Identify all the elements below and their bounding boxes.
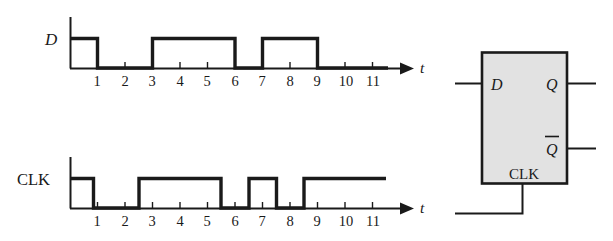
clk-axis-tick-labels: 1 2 3 4 5 6 7 8 9 10 11 xyxy=(93,213,380,229)
clk-tick-label-11: 11 xyxy=(366,213,380,229)
d-tick-label-3: 3 xyxy=(148,73,155,89)
d-tick-label-6: 6 xyxy=(231,73,238,89)
clk-tick-label-8: 8 xyxy=(286,213,293,229)
clk-tick-label-4: 4 xyxy=(176,213,184,229)
clk-axis-arrowhead xyxy=(400,203,414,215)
d-tick-label-7: 7 xyxy=(258,73,265,89)
d-tick-label-2: 2 xyxy=(121,73,128,89)
clk-input-wire xyxy=(455,183,523,214)
figure-canvas: D t xyxy=(0,0,613,241)
clk-tick-label-7: 7 xyxy=(258,213,265,229)
flip-flop-port-clk-label: CLK xyxy=(509,166,539,182)
clk-waveform-group: CLK t xyxy=(17,157,425,229)
flip-flop-port-q-bar-label: Q xyxy=(546,141,558,158)
d-tick-label-4: 4 xyxy=(176,73,184,89)
d-flip-flop-symbol: D Q Q CLK xyxy=(455,53,596,214)
d-axis-arrowhead xyxy=(400,63,414,75)
d-axis-variable: t xyxy=(420,59,425,76)
d-signal-label: D xyxy=(44,30,58,49)
timing-diagram-figure: D t xyxy=(0,0,613,241)
d-axis-tick-labels: 1 2 3 4 5 6 7 8 9 10 11 xyxy=(93,73,380,89)
clk-tick-label-10: 10 xyxy=(339,213,354,229)
d-waveform-group: D t xyxy=(44,17,425,89)
d-tick-label-5: 5 xyxy=(203,73,210,89)
d-tick-label-9: 9 xyxy=(313,73,320,89)
clk-axis-variable: t xyxy=(420,199,425,216)
clk-tick-label-9: 9 xyxy=(313,213,320,229)
flip-flop-port-d-label: D xyxy=(490,76,503,93)
d-tick-label-10: 10 xyxy=(339,73,354,89)
clk-tick-label-6: 6 xyxy=(231,213,238,229)
clk-waveform-trace xyxy=(70,179,386,209)
clk-tick-label-3: 3 xyxy=(148,213,155,229)
clk-signal-label: CLK xyxy=(17,170,50,189)
flip-flop-body xyxy=(482,53,567,184)
clk-tick-label-5: 5 xyxy=(203,213,210,229)
clk-tick-label-1: 1 xyxy=(93,213,100,229)
d-waveform-trace xyxy=(70,39,388,69)
clk-tick-label-2: 2 xyxy=(121,213,128,229)
d-tick-label-8: 8 xyxy=(286,73,293,89)
d-tick-label-1: 1 xyxy=(93,73,100,89)
flip-flop-port-q-label: Q xyxy=(546,76,558,93)
d-tick-label-11: 11 xyxy=(366,73,380,89)
